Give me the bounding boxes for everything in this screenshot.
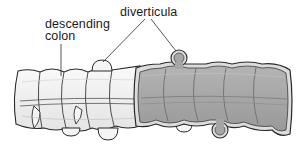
label-descending-colon: descending colon	[45, 18, 110, 42]
colon-interior-section	[134, 62, 292, 135]
colon-exterior	[14, 66, 140, 131]
label-diverticula: diverticula	[120, 6, 177, 18]
colon-diagram: descending colon diverticula	[0, 0, 302, 156]
label-descending-colon-line2: colon	[45, 30, 110, 42]
